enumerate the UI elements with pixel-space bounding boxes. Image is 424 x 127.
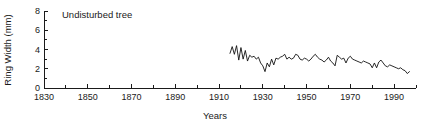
y-tick-label: 4 xyxy=(35,45,40,55)
ring-width-chart: 02468 1830185018701890191019301950197019… xyxy=(0,0,424,127)
x-axis: 183018501870189019101930195019701990 xyxy=(34,84,416,103)
data-series xyxy=(230,46,409,74)
y-axis: 02468 xyxy=(35,6,48,93)
annotation-undisturbed-tree: Undisturbed tree xyxy=(62,9,132,20)
x-tick-label: 1890 xyxy=(165,92,185,102)
y-tick-label: 6 xyxy=(35,25,40,35)
x-tick-label: 1910 xyxy=(209,92,229,102)
x-tick-label: 1990 xyxy=(384,92,404,102)
chart-canvas: 02468 1830185018701890191019301950197019… xyxy=(0,0,424,127)
y-tick-label: 8 xyxy=(35,6,40,16)
x-axis-title: Years xyxy=(203,110,227,121)
x-tick-label: 1830 xyxy=(34,92,54,102)
x-tick-label: 1930 xyxy=(253,92,273,102)
x-tick-label: 1950 xyxy=(297,92,317,102)
x-tick-label: 1870 xyxy=(122,92,142,102)
y-axis-title: Ring Width (mm) xyxy=(2,14,13,85)
y-tick-label: 2 xyxy=(35,64,40,74)
x-tick-label: 1970 xyxy=(340,92,360,102)
series-line xyxy=(230,46,409,74)
x-tick-label: 1850 xyxy=(78,92,98,102)
